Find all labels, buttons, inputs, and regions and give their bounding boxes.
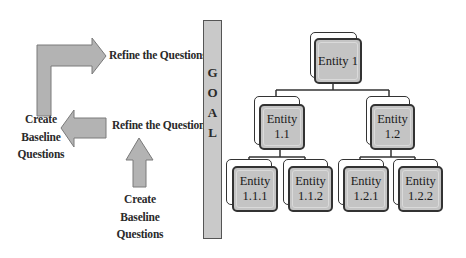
node-number: 1.2.1 xyxy=(354,189,379,204)
node-label: Entity xyxy=(240,174,271,189)
entity-1-2-2-node: Entity 1.2.2 xyxy=(398,166,443,212)
node-label: Entity xyxy=(351,174,382,189)
node-number: 1.1.2 xyxy=(298,189,323,204)
node-label: Entity xyxy=(295,174,326,189)
goal-bar: G O A L xyxy=(203,20,222,239)
node-number: 1.2.2 xyxy=(408,189,433,204)
diagram-canvas: Refine the Questions Refine the Question… xyxy=(0,0,466,258)
entity-1-2-1-node: Entity 1.2.1 xyxy=(343,166,389,212)
node-number: 1.1.1 xyxy=(243,189,268,204)
entity-1-2-node: Entity 1.2 xyxy=(370,104,415,150)
refine-questions-label-middle: Refine the Questions xyxy=(112,119,210,131)
text-line: Questions xyxy=(10,146,72,164)
node-number: 1.2 xyxy=(385,127,401,142)
node-label: Entity xyxy=(377,112,408,127)
node-label: Entity xyxy=(267,112,298,127)
entity-1-node: Entity 1 xyxy=(314,38,362,84)
node-number: 1.1 xyxy=(274,127,290,142)
text-line: Questions xyxy=(109,226,171,244)
text-line: Baseline xyxy=(109,209,171,227)
text-line: Create xyxy=(10,111,72,129)
goal-letter: L xyxy=(204,123,221,143)
text-line: Create xyxy=(109,191,171,209)
refine-questions-label-top: Refine the Questions xyxy=(109,49,207,61)
goal-letter: G xyxy=(204,63,221,83)
create-baseline-questions-left: Create Baseline Questions xyxy=(10,111,72,164)
node-label: Entity xyxy=(405,174,436,189)
goal-letter: O xyxy=(204,83,221,103)
entity-1-1-1-node: Entity 1.1.1 xyxy=(232,166,278,212)
goal-letter: A xyxy=(204,103,221,123)
node-label: Entity 1 xyxy=(318,54,358,69)
goal-label: G O A L xyxy=(204,63,221,143)
up-arrow-icon xyxy=(126,138,153,187)
create-baseline-questions-bottom: Create Baseline Questions xyxy=(109,191,171,244)
entity-1-1-node: Entity 1.1 xyxy=(259,104,305,150)
text-line: Baseline xyxy=(10,129,72,147)
bent-arrow-icon xyxy=(37,38,106,116)
entity-1-1-2-node: Entity 1.1.2 xyxy=(288,166,333,212)
